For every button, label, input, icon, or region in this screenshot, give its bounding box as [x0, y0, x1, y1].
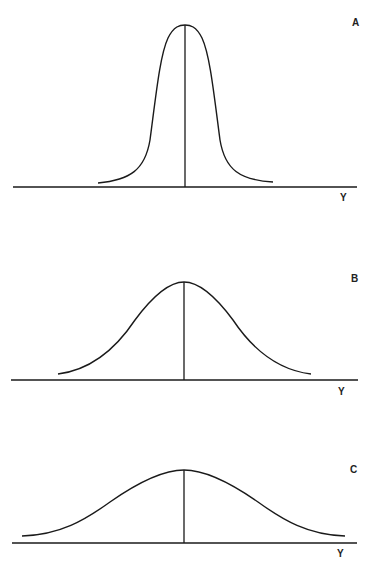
panel-b: B Y [11, 273, 358, 397]
panel-c: C Y [12, 464, 357, 559]
panel-a: A Y [13, 17, 359, 203]
distribution-diagram: A Y B Y C Y [0, 0, 376, 567]
panel-a-label: A [352, 17, 359, 28]
panel-b-axis-label: Y [338, 386, 345, 397]
panel-b-label: B [351, 273, 358, 284]
panel-c-label: C [350, 464, 357, 475]
panel-a-axis-label: Y [340, 192, 347, 203]
panel-c-axis-label: Y [337, 548, 344, 559]
